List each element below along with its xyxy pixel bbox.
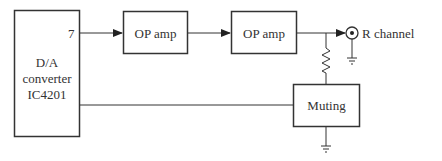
dac-label-line3: IC4201 bbox=[14, 87, 80, 102]
opamp2-label: OP amp bbox=[231, 26, 297, 41]
dac-label-line1: D/A bbox=[14, 55, 80, 70]
output-label: R channel bbox=[362, 26, 414, 41]
dac-label-line2: converter bbox=[14, 71, 80, 86]
ground-icon bbox=[347, 58, 357, 64]
output-jack-icon bbox=[346, 27, 358, 58]
dac-pin-label: 7 bbox=[68, 26, 75, 41]
opamp1-label: OP amp bbox=[123, 26, 188, 41]
ground-icon bbox=[321, 146, 331, 152]
muting-label: Muting bbox=[293, 98, 360, 113]
resistor-icon bbox=[322, 33, 330, 84]
